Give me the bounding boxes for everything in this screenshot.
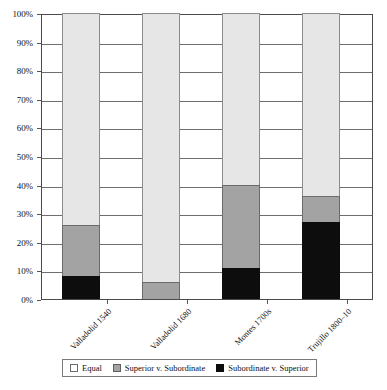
y-axis: 100% 90% 80% 70% 60% 50% 40% 30% 20% 10%…	[0, 0, 36, 390]
segment-subordinate-v-superior	[302, 222, 340, 299]
y-tick-label-80: 80%	[17, 67, 33, 76]
segment-subordinate-v-superior	[62, 276, 100, 299]
equal-swatch-icon	[70, 364, 78, 372]
bar-valladolid-1680	[142, 13, 180, 299]
bar-trujillo-1800-10	[302, 13, 340, 299]
legend-label-subordinate-v-superior: Subordinate v. Superior	[228, 364, 308, 373]
segment-superior-v-subordinate	[62, 225, 100, 276]
x-tick-mark	[267, 300, 268, 304]
y-tick-label-50: 50%	[17, 153, 33, 162]
y-tick-label-90: 90%	[17, 38, 33, 47]
y-tick-label-30: 30%	[17, 210, 33, 219]
segment-superior-v-subordinate	[302, 196, 340, 222]
legend-item-superior-v-subordinate: Superior v. Subordinate	[113, 364, 205, 373]
x-tick-mark	[107, 300, 108, 304]
segment-equal	[302, 13, 340, 196]
y-tick-label-10: 10%	[17, 267, 33, 276]
segment-subordinate-v-superior	[222, 268, 260, 299]
legend-label-superior-v-subordinate: Superior v. Subordinate	[125, 364, 205, 373]
stacked-bar-chart: 100% 90% 80% 70% 60% 50% 40% 30% 20% 10%…	[0, 0, 387, 390]
y-tick-label-100: 100%	[12, 10, 33, 19]
segment-equal	[62, 13, 100, 225]
segment-equal	[142, 13, 180, 282]
segment-equal	[222, 13, 260, 185]
bar-valladolid-1540	[62, 13, 100, 299]
bar-montes-1700s	[222, 13, 260, 299]
subordinate-superior-swatch-icon	[216, 364, 224, 372]
segment-superior-v-subordinate	[142, 282, 180, 299]
x-tick-mark	[347, 300, 348, 304]
y-tick-label-70: 70%	[17, 95, 33, 104]
y-tick-label-0: 0%	[21, 296, 33, 305]
superior-subordinate-swatch-icon	[113, 364, 121, 372]
y-tick-mark	[37, 300, 41, 301]
y-tick-label-40: 40%	[17, 181, 33, 190]
y-tick-label-20: 20%	[17, 238, 33, 247]
legend-label-equal: Equal	[82, 364, 102, 373]
plot-area	[41, 14, 373, 300]
legend-item-equal: Equal	[70, 364, 102, 373]
legend-item-subordinate-v-superior: Subordinate v. Superior	[216, 364, 308, 373]
chart-legend: Equal Superior v. Subordinate Subordinat…	[62, 359, 317, 377]
x-tick-mark	[187, 300, 188, 304]
y-tick-label-60: 60%	[17, 124, 33, 133]
segment-superior-v-subordinate	[222, 185, 260, 268]
